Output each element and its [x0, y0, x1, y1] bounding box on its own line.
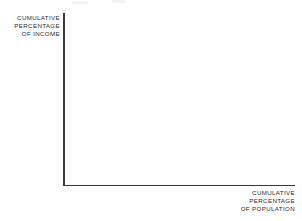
x-axis-label-line-3: OF POPULATION [205, 205, 295, 213]
scan-artifact [72, 1, 88, 4]
y-axis-label-line-3: OF INCOME [0, 30, 60, 38]
x-axis-label-line-2: PERCENTAGE [205, 197, 295, 205]
figure-canvas: CUMULATIVE PERCENTAGE OF INCOME CUMULATI… [0, 0, 302, 221]
y-axis-label: CUMULATIVE PERCENTAGE OF INCOME [0, 14, 60, 39]
x-axis-line [63, 185, 295, 187]
scan-artifact [112, 0, 125, 3]
y-axis-line [63, 13, 65, 186]
x-axis-label: CUMULATIVE PERCENTAGE OF POPULATION [205, 189, 295, 214]
y-axis-label-line-2: PERCENTAGE [0, 22, 60, 30]
x-axis-label-line-1: CUMULATIVE [205, 189, 295, 197]
plot-area [63, 13, 295, 185]
y-axis-label-line-1: CUMULATIVE [0, 14, 60, 22]
